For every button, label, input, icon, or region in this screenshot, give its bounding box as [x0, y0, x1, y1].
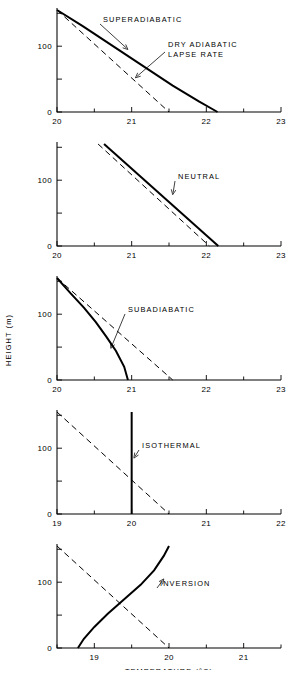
x-tick-label: 22: [201, 117, 211, 126]
series-dry-adiabatic-lapse-rate: [57, 10, 169, 112]
annotation-arrowhead: [134, 453, 139, 459]
plot-neutral: 202122230100NEUTRAL: [0, 134, 295, 268]
x-tick-label: 21: [127, 385, 137, 394]
x-tick-label: 23: [276, 251, 286, 260]
annotation-label: INVERSION: [160, 579, 211, 588]
x-tick-label: 20: [52, 117, 62, 126]
series-subadiabatic: [57, 278, 128, 380]
series-superadiabatic: [57, 10, 218, 112]
x-tick-label: 20: [164, 653, 174, 662]
x-tick-label: 22: [201, 251, 211, 260]
annotation-leader: [112, 314, 126, 347]
axis-lines: [57, 276, 281, 380]
y-tick-label: 100: [37, 444, 52, 453]
panel-inversion: 1920210100INVERSIONTEMPERATURE (°C): [0, 536, 295, 670]
x-tick-label: 23: [276, 117, 286, 126]
y-tick-label: 100: [37, 310, 52, 319]
x-tick-label: 20: [52, 251, 62, 260]
plot-superadiabatic: 202122230100SUPERADIABATICDRY ADIABATICL…: [0, 0, 295, 134]
y-tick-label: 0: [47, 376, 52, 385]
panel-neutral: 202122230100NEUTRAL: [0, 134, 295, 268]
y-tick-label: 100: [37, 42, 52, 51]
y-tick-label: 100: [37, 578, 52, 587]
x-tick-label: 21: [127, 117, 137, 126]
series-dry-adiabatic-lapse-rate: [57, 546, 169, 648]
annotation-label: SUBADIABATIC: [128, 305, 195, 314]
x-tick-label: 21: [239, 653, 249, 662]
x-tick-label: 22: [201, 385, 211, 394]
x-axis-title: TEMPERATURE (°C): [125, 667, 213, 670]
x-tick-label: 20: [127, 519, 137, 528]
x-tick-label: 22: [276, 519, 286, 528]
annotation-label: ISOTHERMAL: [142, 441, 201, 450]
x-tick-label: 20: [52, 385, 62, 394]
series-inversion: [78, 546, 169, 648]
series-dry-adiabatic-lapse-rate: [98, 144, 209, 246]
x-tick-label: 19: [52, 519, 62, 528]
x-tick-label: 19: [89, 653, 99, 662]
panel-subadiabatic: 202122230100SUBADIABATIC: [0, 268, 295, 402]
axis-lines: [57, 142, 281, 246]
annotation-leader: [100, 24, 127, 48]
plot-isothermal: 192021220100ISOTHERMAL: [0, 402, 295, 536]
series-dry-adiabatic-lapse-rate: [57, 412, 169, 514]
panel-isothermal: 192021220100ISOTHERMAL: [0, 402, 295, 536]
annotation-leader: [173, 181, 175, 193]
y-tick-label: 0: [47, 242, 52, 251]
x-tick-label: 23: [276, 385, 286, 394]
x-tick-label: 21: [201, 519, 211, 528]
panel-superadiabatic: 202122230100SUPERADIABATICDRY ADIABATICL…: [0, 0, 295, 134]
series-neutral: [104, 144, 218, 246]
series-dry-adiabatic-lapse-rate: [57, 278, 173, 380]
annotation-label: NEUTRAL: [178, 172, 220, 181]
annotation-label: SUPERADIABATIC: [103, 15, 182, 24]
x-tick-label: 21: [127, 251, 137, 260]
y-tick-label: 0: [47, 510, 52, 519]
y-tick-label: 100: [37, 176, 52, 185]
axis-lines: [57, 410, 281, 514]
lapse-rate-figure: HEIGHT (m) 202122230100SUPERADIABATICDRY…: [0, 0, 295, 681]
y-tick-label: 0: [47, 644, 52, 653]
plot-inversion: 1920210100INVERSIONTEMPERATURE (°C): [0, 536, 295, 670]
annotation-label: DRY ADIABATICLAPSE RATE: [168, 40, 238, 59]
plot-subadiabatic: 202122230100SUBADIABATIC: [0, 268, 295, 402]
y-tick-label: 0: [47, 108, 52, 117]
